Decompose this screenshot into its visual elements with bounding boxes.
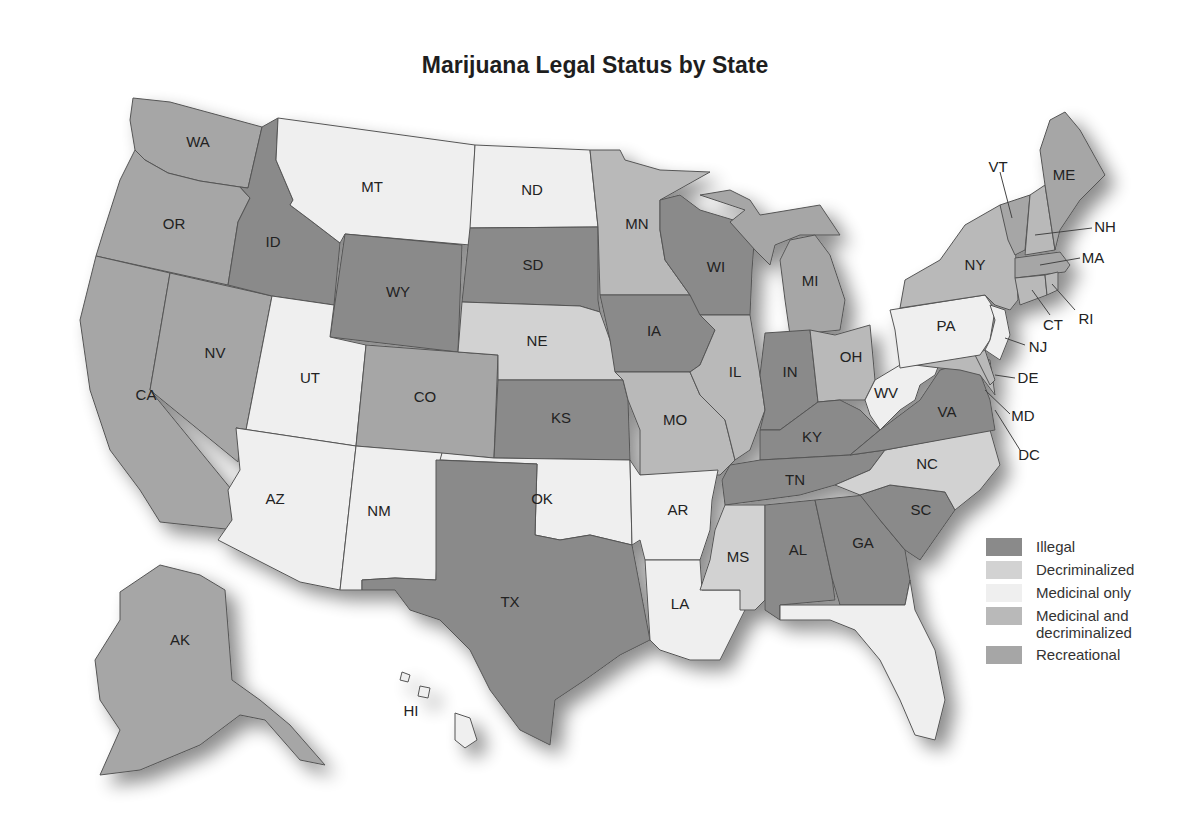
- label-oh: OH: [840, 348, 863, 365]
- label-nv: NV: [205, 344, 226, 361]
- label-pa: PA: [937, 317, 956, 334]
- label-wa: WA: [186, 133, 210, 150]
- label-co: CO: [414, 388, 437, 405]
- label-id: ID: [266, 233, 281, 250]
- label-la: LA: [671, 595, 689, 612]
- legend-swatch-medicinal-only: [986, 584, 1022, 602]
- label-nc: NC: [916, 455, 938, 472]
- label-ks: KS: [551, 409, 571, 426]
- label-ca: CA: [136, 386, 157, 403]
- label-nd: ND: [521, 181, 543, 198]
- label-sc: SC: [911, 501, 932, 518]
- state-ct[interactable]: [1015, 275, 1047, 305]
- state-hi[interactable]: [455, 713, 477, 748]
- label-va: VA: [938, 403, 957, 420]
- label-nh: NH: [1094, 218, 1116, 235]
- label-ms: MS: [727, 548, 750, 565]
- label-ga: GA: [852, 534, 874, 551]
- legend-swatch-illegal: [986, 538, 1022, 556]
- label-ny: NY: [965, 256, 986, 273]
- label-de: DE: [1018, 369, 1039, 386]
- label-nm: NM: [367, 502, 390, 519]
- label-ut: UT: [300, 369, 320, 386]
- label-ri: RI: [1079, 310, 1094, 327]
- legend-item-decriminalized: Decriminalized: [986, 561, 1186, 579]
- label-hi: HI: [404, 702, 419, 719]
- label-mi: MI: [802, 272, 819, 289]
- label-wv: WV: [874, 384, 898, 401]
- legend-item-recreational: Recreational: [986, 646, 1186, 664]
- legend-label: Decriminalized: [1036, 561, 1186, 578]
- label-tx: TX: [500, 593, 519, 610]
- label-il: IL: [729, 363, 742, 380]
- label-in: IN: [783, 363, 798, 380]
- legend-label: Medicinal and decriminalized: [1036, 607, 1186, 641]
- label-ne: NE: [527, 332, 548, 349]
- label-ma: MA: [1082, 249, 1105, 266]
- label-sd: SD: [523, 256, 544, 273]
- legend-label: Illegal: [1036, 538, 1186, 555]
- state-az[interactable]: [218, 428, 356, 590]
- label-wy: WY: [386, 283, 410, 300]
- label-ak: AK: [170, 631, 190, 648]
- truncated-caption: [35, 809, 1165, 817]
- label-ar: AR: [668, 501, 689, 518]
- label-me: ME: [1053, 166, 1076, 183]
- legend-label: Medicinal only: [1036, 584, 1186, 601]
- label-tn: TN: [785, 471, 805, 488]
- label-md: MD: [1011, 407, 1034, 424]
- legend: Illegal Decriminalized Medicinal only Me…: [986, 538, 1186, 669]
- state-ak[interactable]: [95, 565, 325, 775]
- label-or: OR: [163, 215, 186, 232]
- label-ky: KY: [802, 428, 822, 445]
- state-ri[interactable]: [1045, 272, 1058, 295]
- label-vt: VT: [988, 158, 1007, 175]
- label-ct: CT: [1043, 316, 1063, 333]
- legend-swatch-decriminalized: [986, 561, 1022, 579]
- label-dc: DC: [1018, 446, 1040, 463]
- legend-item-illegal: Illegal: [986, 538, 1186, 556]
- state-ny[interactable]: [900, 205, 1018, 310]
- legend-swatch-medicinal-and-decriminalized: [986, 607, 1022, 625]
- label-mn: MN: [625, 215, 648, 232]
- legend-item-medicinal-and-decriminalized: Medicinal and decriminalized: [986, 607, 1186, 641]
- label-al: AL: [789, 541, 807, 558]
- us-map: WA OR CA NV ID MT WY UT CO AZ NM ND SD N…: [0, 0, 1190, 817]
- legend-label: Recreational: [1036, 646, 1186, 663]
- state-hi-island-2[interactable]: [400, 672, 410, 682]
- legend-swatch-recreational: [986, 646, 1022, 664]
- label-mt: MT: [361, 178, 383, 195]
- label-wi: WI: [707, 258, 725, 275]
- label-ok: OK: [531, 490, 553, 507]
- label-nj: NJ: [1029, 338, 1047, 355]
- label-ia: IA: [647, 322, 661, 339]
- label-mo: MO: [663, 411, 687, 428]
- label-az: AZ: [265, 490, 284, 507]
- legend-item-medicinal-only: Medicinal only: [986, 584, 1186, 602]
- state-hi-island[interactable]: [418, 686, 430, 698]
- state-nm[interactable]: [340, 446, 442, 590]
